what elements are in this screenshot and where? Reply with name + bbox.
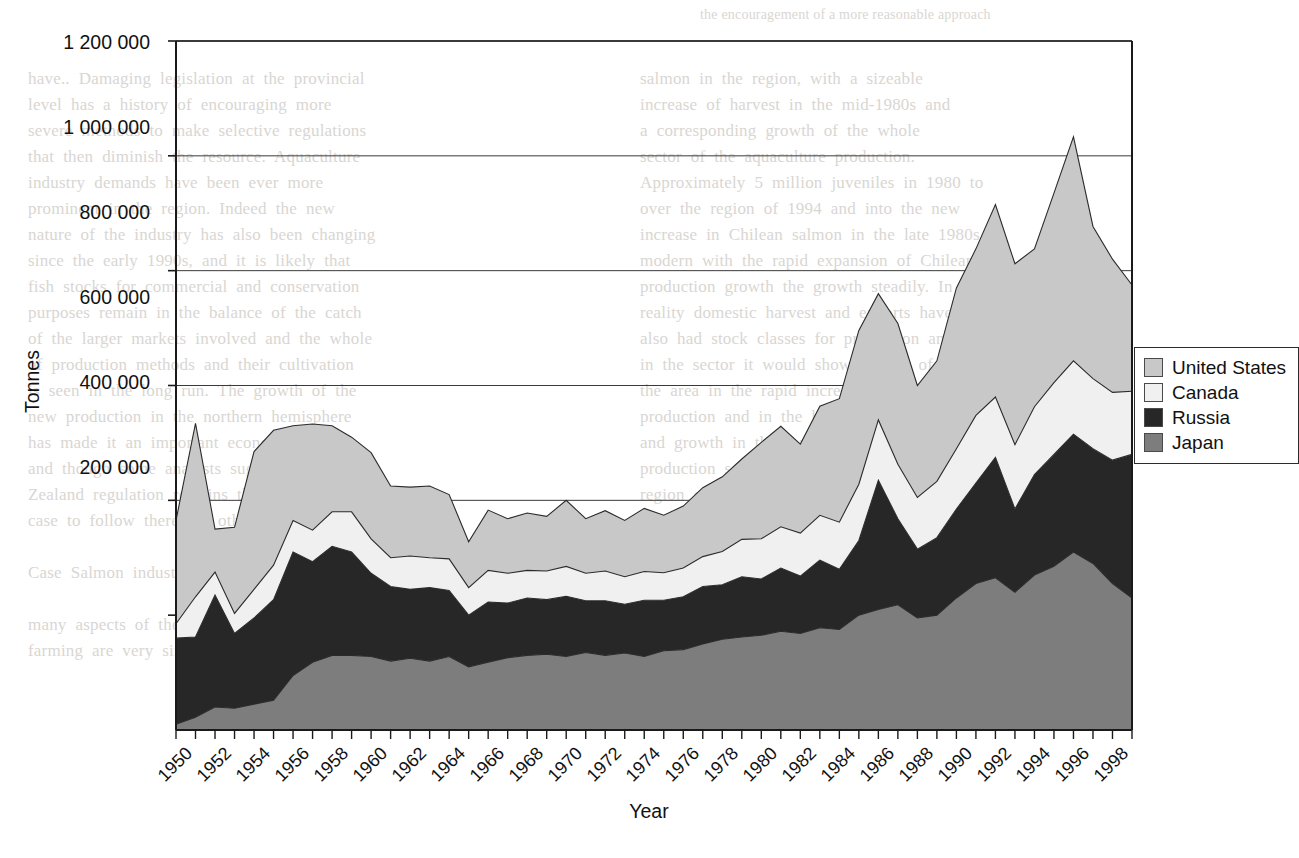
legend-label-russia: Russia [1172, 407, 1230, 429]
legend-item-russia[interactable]: Russia [1144, 405, 1286, 430]
x-axis-title: Year [0, 800, 1298, 823]
legend-label-canada: Canada [1172, 382, 1239, 404]
legend-item-japan[interactable]: Japan [1144, 430, 1286, 455]
legend-label-japan: Japan [1172, 432, 1224, 454]
legend-swatch-canada [1144, 383, 1163, 402]
legend-item-canada[interactable]: Canada [1144, 380, 1286, 405]
legend-label-united-states: United States [1172, 357, 1286, 379]
legend-item-united-states[interactable]: United States [1144, 355, 1286, 380]
legend-swatch-japan [1144, 433, 1163, 452]
legend-swatch-russia [1144, 408, 1163, 427]
chart-legend: United States Canada Russia Japan [1134, 347, 1299, 464]
legend-swatch-united-states [1144, 358, 1163, 377]
